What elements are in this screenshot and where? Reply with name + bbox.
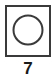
shape-diagram [0, 0, 56, 60]
figure-label: 7 [0, 58, 56, 80]
inner-circle-shape [14, 16, 43, 45]
figure-container: 7 [0, 0, 56, 80]
shape-canvas [0, 0, 56, 60]
